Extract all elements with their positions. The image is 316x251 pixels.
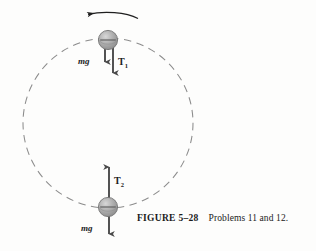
caption-figure-number: FIGURE 5–28 — [137, 213, 199, 223]
tension-1-symbol: T — [118, 56, 125, 67]
figure-caption: FIGURE 5–28 Problems 11 and 12. — [137, 213, 288, 223]
force-label-tension-1: T1 — [118, 57, 128, 70]
ball-top — [98, 30, 117, 49]
figure-container: mg T1 T2 mg FIGURE 5–28 Problems 11 and … — [0, 0, 316, 251]
force-label-tension-2: T2 — [114, 176, 124, 189]
tension-1-subscript: 1 — [125, 62, 128, 69]
force-label-mg-bottom: mg — [81, 224, 93, 233]
force-label-mg-top: mg — [78, 57, 90, 66]
circular-path — [23, 38, 193, 208]
tension-2-subscript: 2 — [121, 181, 124, 188]
ball-bottom — [98, 197, 117, 216]
tension-2-symbol: T — [114, 175, 121, 186]
caption-text: Problems 11 and 12. — [209, 213, 289, 223]
rotation-direction-arrow — [88, 12, 138, 18]
